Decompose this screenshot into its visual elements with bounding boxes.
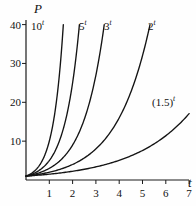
curve-label-exponent: t [85,18,87,27]
y-axis-label: P [34,2,42,15]
x-tick-label: 7 [179,188,196,199]
y-tick-label: 20 [1,97,21,108]
curve-10 [26,25,63,177]
x-tick-label: 2 [63,188,83,199]
curve-label-exponent: t [154,18,156,27]
curve-5 [26,25,79,177]
curve-3 [26,25,104,177]
exponential-growth-figure: P t 1234567 10203040 10t5t3t2t(1.5)t [0,0,196,206]
x-tick-label: 6 [156,188,176,199]
curve-label-1.5: (1.5)t [152,97,175,108]
y-tick-label: 10 [1,136,21,147]
curve-label-base: (1.5) [152,96,173,108]
curve-label-exponent: t [173,94,175,103]
y-tick-label: 40 [1,20,21,31]
curve-label-5: 5t [79,21,87,32]
y-tick-label: 30 [1,58,21,69]
curve-2 [26,25,150,177]
x-tick-label: 1 [39,188,59,199]
curve-1.5 [26,114,189,176]
curve-label-exponent: t [110,18,112,27]
curve-label-10: 10t [31,21,44,32]
x-tick-label: 4 [109,188,129,199]
curve-label-3: 3t [104,21,112,32]
curve-label-base: 10 [31,20,42,32]
x-tick-label: 3 [86,188,106,199]
curve-label-exponent: t [42,18,44,27]
x-tick-label: 5 [133,188,153,199]
curve-label-2: 2t [148,21,156,32]
